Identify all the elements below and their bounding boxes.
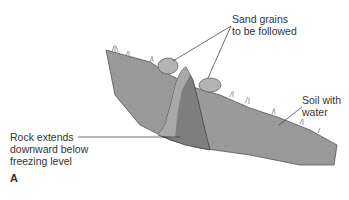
rock-label: Rock extends downward below freezing lev…: [10, 131, 88, 167]
sand-grains-label: Sand grains to be followed: [232, 13, 297, 37]
rock-label-line1: Rock extends: [10, 131, 88, 143]
rock-label-line3: freezing level: [10, 155, 88, 167]
sand-label-line2: to be followed: [232, 25, 297, 37]
sand-grain-right: [199, 78, 221, 92]
sand-grain-left: [158, 58, 178, 74]
rock-label-line2: downward below: [10, 143, 88, 155]
soil-label: Soil with water: [302, 94, 341, 118]
panel-label: A: [10, 172, 18, 184]
sand-label-line1: Sand grains: [232, 13, 297, 25]
soil-label-line1: Soil with: [302, 94, 341, 106]
soil-label-line2: water: [302, 106, 341, 118]
